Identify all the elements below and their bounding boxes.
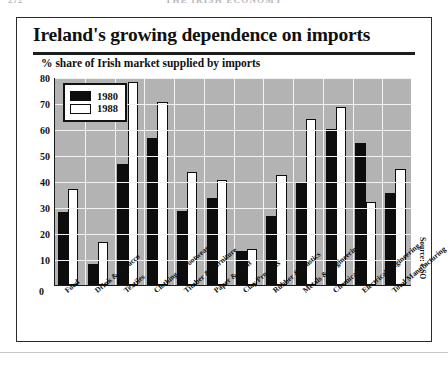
bar-1980 bbox=[58, 212, 68, 285]
page-bottom-rule bbox=[0, 352, 448, 353]
bar-1980 bbox=[147, 138, 157, 285]
bar-1988 bbox=[68, 189, 78, 285]
bar-1980 bbox=[355, 143, 365, 285]
page-header: 272 THE IRISH ECONOMY bbox=[0, 0, 448, 12]
figure-frame: Ireland's growing dependence on imports … bbox=[16, 17, 432, 342]
vertical-gridline bbox=[144, 78, 145, 285]
vertical-gridline bbox=[263, 78, 264, 285]
y-axis-tick-label: 30 bbox=[40, 203, 50, 214]
title-divider bbox=[33, 52, 415, 55]
bar-1988 bbox=[366, 202, 376, 285]
y-axis-tick-label: 70 bbox=[40, 99, 50, 110]
vertical-gridline bbox=[293, 78, 294, 285]
y-axis-ticks: 1020304050607080 bbox=[17, 78, 50, 286]
legend-item: 1988 bbox=[70, 103, 118, 114]
running-head: THE IRISH ECONOMY bbox=[0, 0, 448, 5]
bar-1988 bbox=[217, 180, 227, 285]
y-axis-tick-label: 50 bbox=[40, 151, 50, 162]
legend-label-1988: 1988 bbox=[97, 103, 118, 114]
vertical-gridline bbox=[323, 78, 324, 285]
vertical-gridline bbox=[382, 78, 383, 285]
legend-swatch-1980-icon bbox=[70, 91, 91, 101]
source-note: Source: CSO bbox=[418, 237, 427, 279]
legend-label-1980: 1980 bbox=[97, 91, 118, 102]
bar-1980 bbox=[88, 264, 98, 285]
y-axis-tick-label: 20 bbox=[40, 229, 50, 240]
y-axis-zero-label: 0 bbox=[39, 286, 44, 297]
y-axis-tick-label: 10 bbox=[40, 255, 50, 266]
x-axis-labels: FoodDrink & TobaccoTextilesClothing & Fo… bbox=[54, 288, 411, 358]
y-axis-tick-label: 80 bbox=[40, 73, 50, 84]
legend-swatch-1988-icon bbox=[70, 104, 91, 114]
y-axis-tick-label: 60 bbox=[40, 125, 50, 136]
legend-item: 1980 bbox=[70, 91, 118, 102]
figure-subtitle: % share of Irish market supplied by impo… bbox=[41, 57, 260, 69]
vertical-gridline bbox=[174, 78, 175, 285]
chart-legend: 1980 1988 bbox=[63, 83, 127, 122]
figure-title: Ireland's growing dependence on imports bbox=[33, 24, 370, 46]
y-axis-tick-label: 40 bbox=[40, 177, 50, 188]
